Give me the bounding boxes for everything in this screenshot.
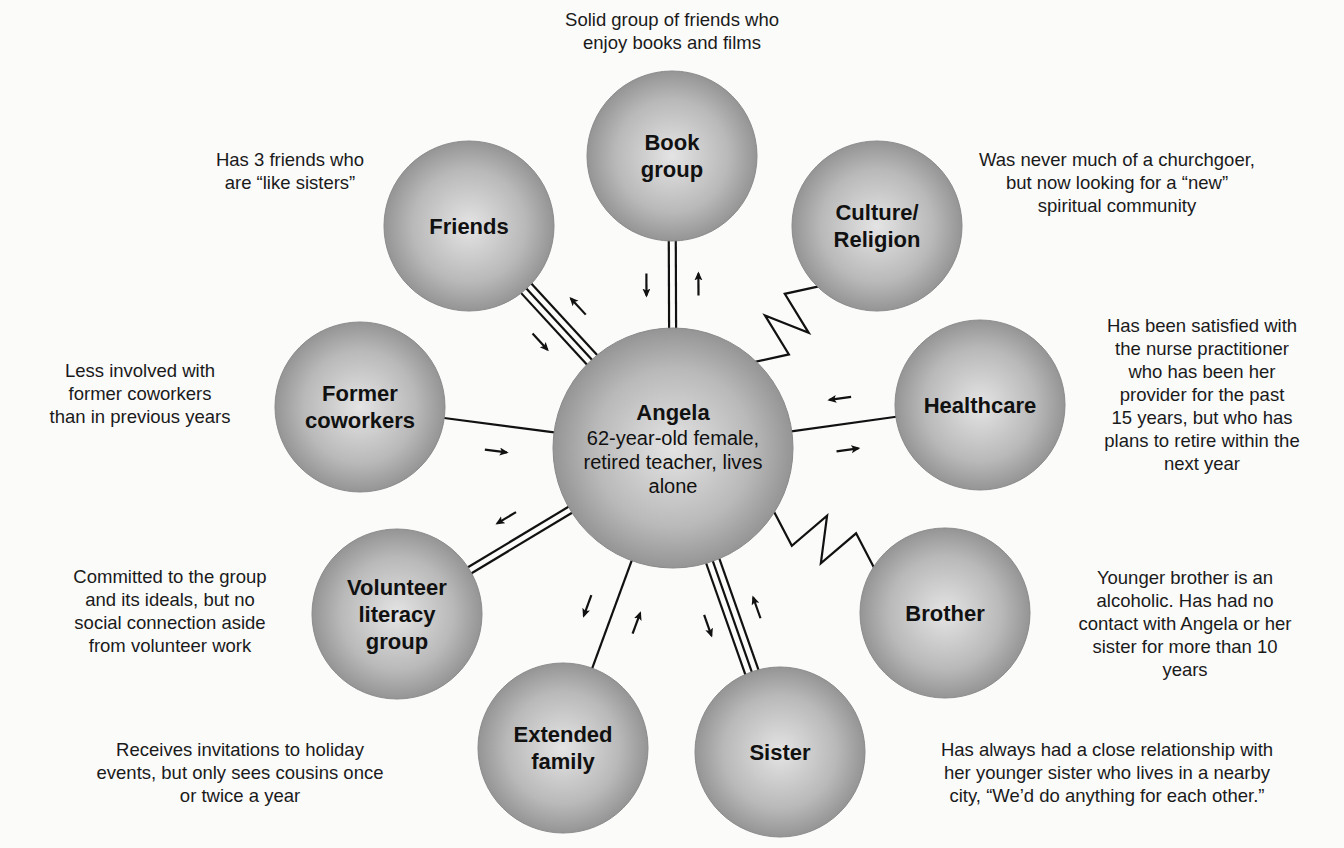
- note-extended-family: Receives invitations to holiday events, …: [50, 738, 430, 807]
- arrow-to-volunteer-literacy-group-icon: [497, 512, 516, 523]
- note-culture-religion: Was never much of a churchgoer, but now …: [947, 148, 1287, 217]
- connector-friends: [519, 281, 600, 367]
- center-node-angela: [553, 328, 793, 568]
- node-circle-healthcare: [895, 320, 1065, 490]
- arrow-to-friends-icon: [571, 298, 586, 314]
- connector-healthcare: [788, 416, 900, 432]
- note-brother: Younger brother is an alcoholic. Has had…: [1030, 566, 1340, 681]
- arrow-from-healthcare-icon: [829, 397, 851, 400]
- node-circle-friends: [384, 141, 554, 311]
- note-former-coworkers: Less involved with former coworkers than…: [0, 359, 280, 428]
- connector-culture-religion: [751, 286, 822, 363]
- connector-extended-family: [591, 557, 633, 672]
- arrow-to-sister-icon: [704, 615, 711, 636]
- note-volunteer-literacy-group: Committed to the group and its ideals, b…: [20, 565, 320, 657]
- arrow-from-extended-family-icon: [633, 613, 641, 634]
- note-healthcare: Has been satisfied with the nurse practi…: [1062, 314, 1342, 475]
- node-circle-book-group: [587, 71, 757, 241]
- arrow-to-healthcare-icon: [837, 448, 859, 451]
- connector-sister: [705, 555, 760, 678]
- node-circle-former-coworkers: [275, 322, 445, 492]
- connector-former-coworkers: [440, 418, 558, 433]
- node-circle-volunteer-literacy-group: [312, 529, 482, 699]
- node-circle-culture-religion: [792, 141, 962, 311]
- connector-volunteer-literacy-group: [465, 505, 576, 575]
- arrow-to-extended-family-icon: [584, 595, 592, 616]
- arrow-from-friends-icon: [533, 334, 548, 350]
- note-friends: Has 3 friends who are “like sisters”: [180, 148, 400, 194]
- arrow-from-sister-icon: [753, 597, 760, 618]
- connector-brother: [772, 508, 876, 571]
- node-circle-brother: [860, 528, 1030, 698]
- node-circle-extended-family: [478, 663, 648, 833]
- connector-book-group: [669, 237, 676, 332]
- arrow-from-former-coworkers-icon: [485, 450, 507, 453]
- node-circle-sister: [695, 667, 865, 837]
- note-sister: Has always had a close relationship with…: [872, 738, 1342, 807]
- note-book-group: Solid group of friends who enjoy books a…: [502, 8, 842, 54]
